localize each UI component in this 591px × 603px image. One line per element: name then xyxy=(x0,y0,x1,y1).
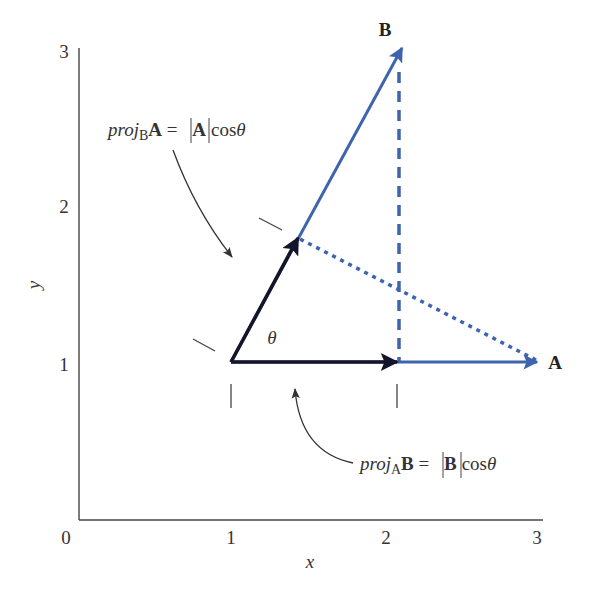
y-tick-3: 3 xyxy=(59,41,69,62)
proj-subscript: B xyxy=(139,128,148,143)
angle: θ xyxy=(487,453,496,474)
proj-b-a-vector xyxy=(231,238,298,362)
equals-sign: = xyxy=(414,453,434,474)
x-tick-1: 1 xyxy=(226,527,236,548)
abs-vector: A xyxy=(192,119,206,140)
trig-fn: cos xyxy=(211,119,236,140)
x-tick-labels: 0 1 2 3 xyxy=(61,527,542,548)
vector-a-label: A xyxy=(548,352,562,373)
bracket-tick-b-end xyxy=(259,218,282,230)
x-tick-2: 2 xyxy=(381,527,391,548)
svg-text:projAB = Bcosθ: projAB = Bcosθ xyxy=(358,453,496,477)
y-tick-labels: 1 2 3 xyxy=(59,41,69,375)
perpendicular-a-to-b xyxy=(298,238,536,360)
proj-vector: A xyxy=(148,119,162,140)
y-tick-2: 2 xyxy=(59,196,69,217)
proj-prefix: proj xyxy=(106,119,139,140)
projection-diagram: 0 1 2 3 1 2 3 x y θ B A projBA = Acosθ xyxy=(0,0,591,603)
trig-fn: cos xyxy=(462,453,487,474)
callout-arrow-proj-b-a xyxy=(173,150,232,257)
angle-theta-label: θ xyxy=(267,327,276,348)
abs-vector: B xyxy=(444,453,457,474)
formula-proj-a-b: projAB = Bcosθ xyxy=(358,452,496,478)
callout-arrow-proj-a-b xyxy=(295,389,353,463)
y-tick-1: 1 xyxy=(59,354,69,375)
x-tick-0: 0 xyxy=(61,527,71,548)
proj-prefix: proj xyxy=(358,453,391,474)
formula-proj-b-a: projBA = Acosθ xyxy=(106,118,246,143)
svg-text:projBA = Acosθ: projBA = Acosθ xyxy=(106,119,246,143)
bracket-tick-b-start xyxy=(193,339,215,351)
x-axis-label: x xyxy=(305,551,315,572)
angle: θ xyxy=(236,119,245,140)
y-axis-label: y xyxy=(23,280,44,291)
vector-b-label: B xyxy=(379,19,392,40)
equals-sign: = xyxy=(162,119,182,140)
proj-vector: B xyxy=(401,453,414,474)
x-tick-3: 3 xyxy=(532,527,542,548)
